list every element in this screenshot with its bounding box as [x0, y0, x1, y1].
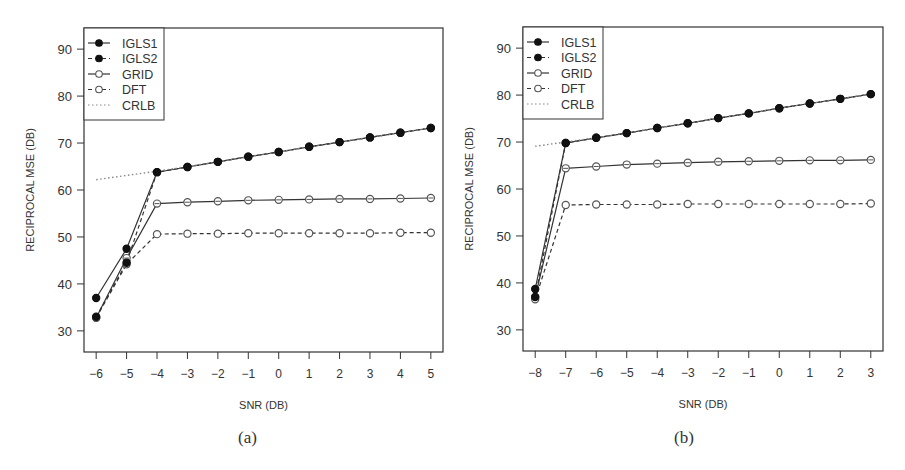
marker-dft: [593, 201, 600, 208]
chart-a-caption: (a): [238, 428, 257, 448]
marker-igls1: [745, 110, 752, 117]
x-tick-label: −4: [650, 366, 664, 380]
legend-marker-igls2: [535, 54, 542, 61]
marker-igls2: [123, 259, 130, 266]
marker-dft: [776, 200, 783, 207]
chart-panel-b: 30405060708090−8−7−6−5−4−3−2−10123SNR (D…: [452, 0, 904, 470]
marker-igls1: [715, 114, 722, 121]
marker-igls1: [427, 124, 434, 131]
x-tick-label: 2: [336, 367, 343, 381]
legend-marker-igls2: [96, 55, 103, 62]
legend-label-grid: GRID: [122, 68, 153, 82]
marker-dft: [806, 200, 813, 207]
marker-dft: [654, 201, 661, 208]
chart-b-plot: 30405060708090−8−7−6−5−4−3−2−10123SNR (D…: [452, 0, 904, 420]
series-line-igls2: [535, 94, 871, 297]
y-tick-label: 30: [58, 324, 72, 339]
x-axis-label: SNR (DB): [239, 399, 288, 411]
marker-igls1: [245, 153, 252, 160]
marker-dft: [214, 230, 221, 237]
x-tick-label: 1: [806, 366, 813, 380]
x-tick-label: 4: [397, 367, 404, 381]
marker-dft: [684, 200, 691, 207]
marker-igls1: [562, 139, 569, 146]
legend-label-igls1: IGLS1: [122, 37, 157, 51]
y-tick-label: 90: [58, 42, 72, 57]
x-tick-label: −3: [681, 366, 695, 380]
marker-dft: [366, 230, 373, 237]
chart-b-caption: (b): [674, 428, 694, 448]
marker-igls1: [623, 130, 630, 137]
y-axis-label: RECIPROCAL MSE (DB): [463, 127, 475, 251]
marker-dft: [306, 230, 313, 237]
legend-label-crlb: CRLB: [561, 98, 594, 112]
marker-igls1: [336, 139, 343, 146]
y-tick-label: 80: [497, 88, 511, 103]
marker-igls1: [654, 124, 661, 131]
y-tick-label: 90: [497, 41, 511, 56]
legend: IGLS1IGLS2GRIDDFTCRLB: [84, 28, 164, 120]
x-tick-label: −2: [711, 366, 725, 380]
marker-igls1: [184, 163, 191, 170]
legend-label-crlb: CRLB: [122, 99, 155, 113]
x-tick-label: −6: [589, 366, 603, 380]
x-tick-label: 2: [837, 366, 844, 380]
x-axis-label: SNR (DB): [679, 398, 728, 410]
legend-marker-dft: [96, 86, 103, 93]
series-line-grid: [535, 160, 871, 297]
x-tick-label: 5: [427, 367, 434, 381]
legend-label-dft: DFT: [122, 83, 147, 97]
x-tick-label: 0: [275, 367, 282, 381]
marker-dft: [397, 229, 404, 236]
x-tick-label: −4: [150, 367, 164, 381]
marker-igls1: [306, 143, 313, 150]
x-tick-label: −3: [181, 367, 195, 381]
marker-igls1: [397, 129, 404, 136]
marker-igls1: [275, 148, 282, 155]
marker-dft: [715, 200, 722, 207]
marker-dft: [623, 201, 630, 208]
series-line-grid: [96, 198, 431, 318]
marker-igls1: [776, 105, 783, 112]
y-tick-label: 50: [58, 230, 72, 245]
y-tick-label: 40: [58, 277, 72, 292]
x-tick-label: −5: [620, 366, 634, 380]
marker-dft: [184, 230, 191, 237]
series-line-igls1: [96, 128, 431, 298]
legend-label-dft: DFT: [561, 82, 586, 96]
y-tick-label: 40: [497, 276, 511, 291]
legend-marker-igls1: [535, 39, 542, 46]
x-tick-label: 3: [367, 367, 374, 381]
marker-igls1: [532, 285, 539, 292]
x-tick-label: −5: [120, 367, 134, 381]
marker-dft: [867, 200, 874, 207]
marker-dft: [275, 230, 282, 237]
marker-dft: [745, 200, 752, 207]
x-tick-label: 3: [867, 366, 874, 380]
x-tick-label: 0: [776, 366, 783, 380]
marker-dft: [562, 201, 569, 208]
marker-dft: [153, 231, 160, 238]
x-tick-label: −8: [528, 366, 542, 380]
marker-igls1: [366, 134, 373, 141]
marker-igls2: [93, 313, 100, 320]
x-tick-label: −1: [241, 367, 255, 381]
y-tick-label: 80: [58, 89, 72, 104]
x-tick-label: 1: [306, 367, 313, 381]
marker-dft: [336, 230, 343, 237]
x-tick-label: −7: [559, 366, 573, 380]
marker-igls1: [684, 120, 691, 127]
chart-a-plot: 30405060708090−6−5−4−3−2−1012345SNR (DB)…: [0, 0, 452, 420]
legend-label-igls2: IGLS2: [122, 52, 157, 66]
legend: IGLS1IGLS2GRIDDFTCRLB: [523, 27, 603, 119]
legend-label-grid: GRID: [561, 67, 592, 81]
y-tick-label: 60: [58, 183, 72, 198]
x-tick-label: −2: [211, 367, 225, 381]
marker-igls1: [806, 100, 813, 107]
series-line-igls1: [535, 94, 871, 289]
legend-label-igls2: IGLS2: [561, 51, 596, 65]
marker-dft: [245, 230, 252, 237]
marker-dft: [427, 229, 434, 236]
legend-label-igls1: IGLS1: [561, 36, 596, 50]
marker-igls1: [593, 134, 600, 141]
